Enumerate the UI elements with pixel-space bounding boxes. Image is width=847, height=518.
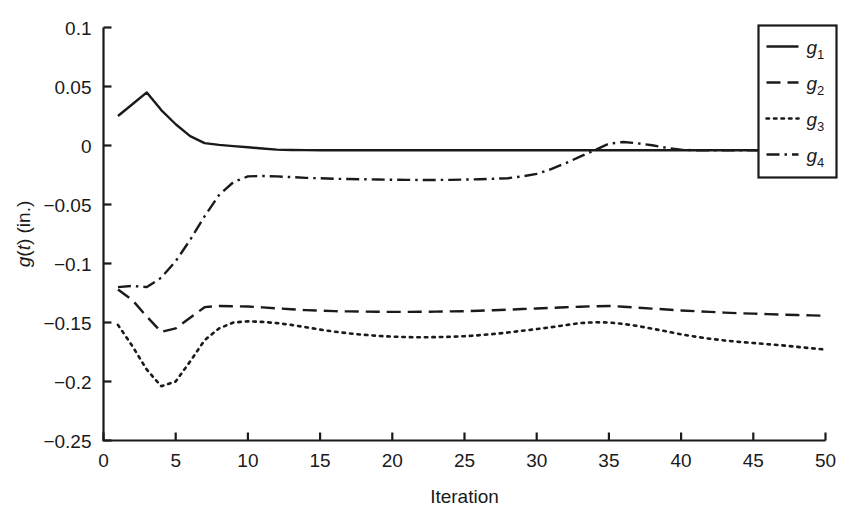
figure-container: 0.10.050−0.05−0.1−0.15−0.2−0.25051015202… [0,0,847,518]
x-tick-label: 45 [743,450,764,471]
x-axis-label: Iteration [430,486,499,507]
series-line-g4 [118,142,826,287]
x-tick-label: 0 [98,450,109,471]
y-tick-label: 0.05 [55,77,92,98]
x-tick-label: 5 [170,450,181,471]
x-tick-label: 20 [382,450,403,471]
x-tick-label: 40 [671,450,692,471]
x-tick-label: 10 [237,450,258,471]
y-tick-label: −0.2 [54,372,92,393]
y-tick-label: 0.1 [65,18,91,39]
y-tick-label: −0.25 [43,431,91,452]
y-tick-label: −0.15 [43,313,91,334]
x-tick-label: 30 [526,450,547,471]
y-tick-label: −0.1 [54,254,92,275]
line-chart: 0.10.050−0.05−0.1−0.15−0.2−0.25051015202… [0,0,847,518]
axis-frame [104,28,826,441]
x-tick-label: 35 [598,450,619,471]
series-line-g3 [118,321,826,386]
x-tick-label: 50 [815,450,836,471]
series-line-g1 [118,92,826,150]
x-tick-label: 15 [310,450,331,471]
y-axis-label: g(t) (in.) [13,201,34,268]
y-tick-label: 0 [81,136,92,157]
y-tick-label: −0.05 [43,195,91,216]
x-tick-label: 25 [454,450,475,471]
